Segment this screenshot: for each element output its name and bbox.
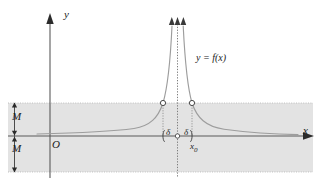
limit-diagram-figure: y x O y = f(x) M M δ δ x0 bbox=[0, 0, 321, 187]
function-curve-label: y = f(x) bbox=[196, 53, 226, 63]
delta-left-label: δ bbox=[166, 128, 170, 137]
y-axis-label: y bbox=[64, 9, 69, 20]
x0-open-point bbox=[175, 134, 179, 138]
curve-right-branch-arrowhead bbox=[181, 17, 187, 25]
asymptote-arrowhead bbox=[175, 17, 181, 25]
curve-bound-point-left bbox=[160, 100, 165, 105]
figure-canvas bbox=[0, 0, 321, 187]
x0-label: x0 bbox=[190, 142, 198, 154]
upper-bound-label: M bbox=[12, 111, 21, 122]
x-axis-label: x bbox=[303, 125, 308, 136]
lower-bound-label: M bbox=[12, 143, 21, 154]
origin-label: O bbox=[52, 139, 60, 150]
x0-label-subscript: 0 bbox=[194, 146, 198, 154]
curve-left-branch-arrowhead bbox=[169, 17, 175, 25]
curve-bound-point-right bbox=[189, 100, 194, 105]
delta-right-label: δ bbox=[184, 128, 188, 137]
y-axis-arrowhead bbox=[46, 13, 53, 24]
